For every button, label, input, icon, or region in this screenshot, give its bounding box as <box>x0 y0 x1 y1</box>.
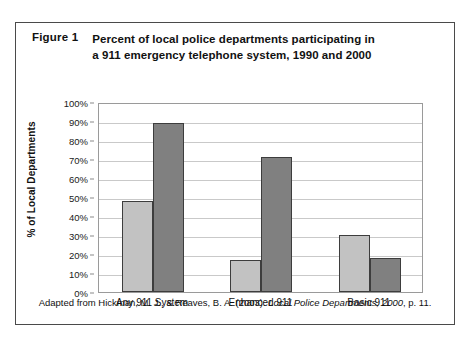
y-axis-tick-label: 60% <box>69 174 88 185</box>
y-axis-tick-label: 20% <box>69 250 88 261</box>
figure-card: Figure 1 Percent of local police departm… <box>15 22 455 325</box>
y-axis-tick-label: 10% <box>69 269 88 280</box>
y-axis-tick-label: 100% <box>64 98 88 109</box>
y-axis-tick-mark <box>90 198 94 199</box>
figure-number-label: Figure 1 <box>32 31 78 63</box>
y-axis-tick-mark <box>90 274 94 275</box>
y-axis-tick-labels: 100%90%80%70%60%50%40%30%20%10%0% <box>40 103 94 293</box>
y-axis-tick-mark <box>90 236 94 237</box>
figure-title-line-2: a 911 emergency telephone system, 1990 a… <box>92 47 375 63</box>
bar-2000[interactable] <box>370 258 401 292</box>
bar-2000[interactable] <box>261 157 292 292</box>
figure-source-note: Adapted from Hickman, M. J., & Reaves, B… <box>16 297 454 308</box>
source-prefix: Adapted from Hickman, M. J., & Reaves, B… <box>39 297 269 308</box>
bar-1990[interactable] <box>122 201 153 292</box>
y-axis-tick-label: 40% <box>69 212 88 223</box>
y-axis-tick-label: 80% <box>69 136 88 147</box>
bar-group <box>316 104 424 292</box>
source-suffix: , p. 11. <box>403 297 431 308</box>
bar-1990[interactable] <box>339 235 370 292</box>
y-axis-tick-label: 70% <box>69 155 88 166</box>
y-axis-tick-label: 30% <box>69 231 88 242</box>
y-axis-tick-mark <box>90 179 94 180</box>
y-axis-tick-mark <box>90 255 94 256</box>
bar-2000[interactable] <box>153 123 184 292</box>
y-axis-tick-label: 90% <box>69 117 88 128</box>
y-axis-tick-mark <box>90 293 94 294</box>
y-axis-tick-label: 50% <box>69 193 88 204</box>
figure-title-block: Figure 1 Percent of local police departm… <box>16 31 454 63</box>
figure-title-line-1: Percent of local police departments part… <box>92 31 375 47</box>
y-axis-tick-mark <box>90 141 94 142</box>
chart-region: % of Local Departments 100%90%80%70%60%5… <box>16 73 456 288</box>
bar-group <box>207 104 315 292</box>
y-axis-tick-mark <box>90 160 94 161</box>
bar-1990[interactable] <box>230 260 261 292</box>
y-axis-tick-mark <box>90 217 94 218</box>
source-title-italic: Local Police Departments, 2000 <box>268 297 403 308</box>
plot-area <box>98 103 423 293</box>
bars-layer <box>99 104 422 292</box>
y-axis-title-text: % of Local Departments <box>26 121 37 237</box>
y-axis-tick-mark <box>90 122 94 123</box>
y-axis-tick-mark <box>90 103 94 104</box>
bar-group <box>99 104 207 292</box>
y-axis-title: % of Local Departments <box>22 85 40 273</box>
figure-title: Percent of local police departments part… <box>92 31 375 63</box>
